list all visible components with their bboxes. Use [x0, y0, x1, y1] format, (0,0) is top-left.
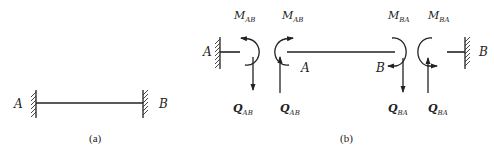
- caption-b: (b): [340, 132, 353, 145]
- beam-end-label-a: A: [300, 61, 310, 75]
- figure-a: A B (a): [13, 90, 168, 145]
- caption-a: (a): [89, 132, 102, 145]
- beam-diagram: A B (a) A MAB QAB A MAB QA: [0, 0, 494, 156]
- label-b: B: [158, 97, 168, 111]
- support-label-b: B: [478, 45, 488, 59]
- fixed-support-a-icon: [31, 90, 36, 118]
- moment-arrow-icon: [241, 38, 259, 65]
- moment-label: MAB: [281, 9, 303, 24]
- shear-label: QAB: [233, 102, 253, 117]
- shear-label: QBA: [428, 102, 448, 117]
- support-label-a: A: [202, 45, 212, 59]
- shear-label: QBA: [388, 102, 408, 117]
- moment-label: MBA: [427, 9, 449, 24]
- fixed-support-b-icon: [143, 90, 148, 118]
- figure-b: A MAB QAB A MAB QAB B MBA QBA MBA QBA: [202, 9, 488, 145]
- beam-end-label-b: B: [375, 61, 385, 75]
- moment-label: MAB: [233, 9, 255, 24]
- fixed-support-b-icon: [465, 37, 470, 69]
- moment-label: MBA: [387, 9, 409, 24]
- fixed-support-a-icon: [215, 37, 220, 69]
- label-a: A: [13, 97, 23, 111]
- shear-label: QAB: [280, 102, 300, 117]
